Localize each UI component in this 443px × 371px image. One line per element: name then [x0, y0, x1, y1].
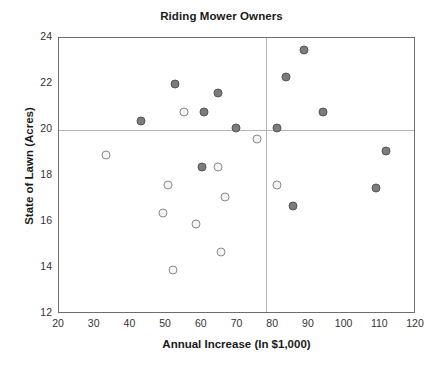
- scatter-chart-figure: Riding Mower Owners 20304050607080901001…: [0, 0, 443, 371]
- x-axis-label: Annual Increase (In $1,000): [58, 338, 415, 350]
- x-tick-label: 100: [324, 317, 364, 329]
- data-point: [199, 107, 208, 116]
- data-point: [158, 208, 167, 217]
- data-point: [169, 266, 178, 275]
- x-tick-label: 20: [38, 317, 78, 329]
- vertical-reference-line: [266, 38, 267, 312]
- data-point: [299, 45, 308, 54]
- data-point: [171, 80, 180, 89]
- data-point: [192, 220, 201, 229]
- data-point: [382, 146, 391, 155]
- x-tick-label: 110: [359, 317, 399, 329]
- x-tick-label: 90: [288, 317, 328, 329]
- x-tick-label: 50: [145, 317, 185, 329]
- data-point: [253, 135, 262, 144]
- y-axis-label: State of Lawn (Acres): [23, 51, 35, 281]
- data-point: [102, 151, 111, 160]
- data-point: [319, 107, 328, 116]
- data-point: [281, 73, 290, 82]
- data-point: [179, 107, 188, 116]
- x-tick-label: 40: [109, 317, 149, 329]
- y-tick-label: 24: [16, 30, 52, 42]
- data-point: [288, 201, 297, 210]
- x-tick-label: 70: [217, 317, 257, 329]
- x-tick-label: 120: [395, 317, 435, 329]
- data-point: [221, 192, 230, 201]
- plot-area: [58, 37, 415, 313]
- x-tick-label: 60: [181, 317, 221, 329]
- data-point: [272, 123, 281, 132]
- data-point: [163, 181, 172, 190]
- data-point: [137, 116, 146, 125]
- data-point: [372, 183, 381, 192]
- data-point: [231, 123, 240, 132]
- data-point: [217, 247, 226, 256]
- data-point: [197, 162, 206, 171]
- chart-title: Riding Mower Owners: [0, 10, 443, 22]
- data-point: [272, 181, 281, 190]
- y-tick-label: 12: [16, 306, 52, 318]
- data-point: [213, 89, 222, 98]
- x-tick-label: 30: [74, 317, 114, 329]
- data-point: [213, 162, 222, 171]
- x-tick-label: 80: [252, 317, 292, 329]
